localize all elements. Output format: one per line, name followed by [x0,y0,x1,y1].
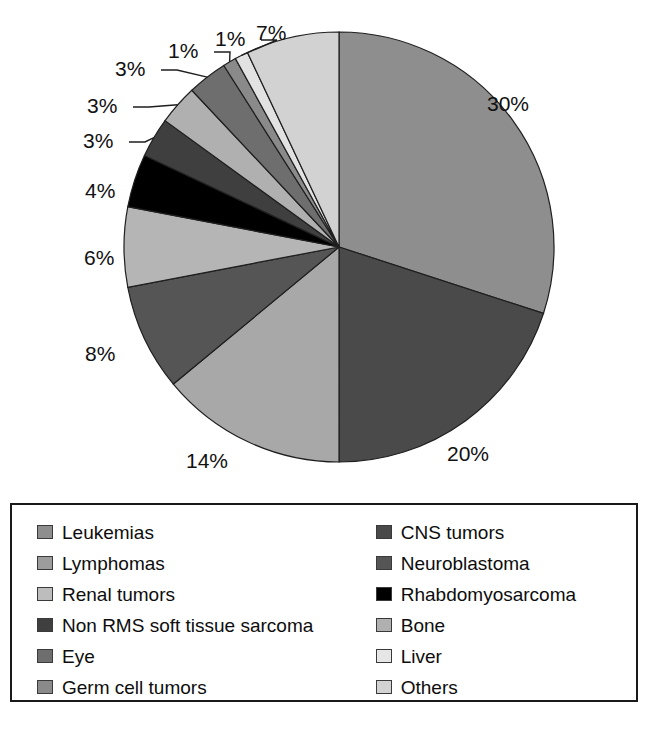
legend-item[interactable]: Eye [37,643,370,669]
pie-leader-line [214,52,230,62]
pie-percentage-label: 14% [186,450,228,471]
legend-swatch-icon [37,525,53,539]
pie-leader-line [129,138,154,142]
legend-swatch-icon [37,649,53,663]
legend-item-label: CNS tumors [401,523,504,542]
pie-percentage-label: 1% [168,40,198,61]
legend-item-label: Non RMS soft tissue sarcoma [62,616,313,635]
pie-percentage-label: 3% [83,130,113,151]
legend-swatch-icon [37,618,53,632]
pie-percentage-label: 1% [215,28,245,49]
legend-item[interactable]: Germ cell tumors [37,674,370,700]
pie-percentage-label: 3% [87,95,117,116]
legend-swatch-icon [37,680,53,694]
legend-column-left: LeukemiasLymphomasRenal tumorsNon RMS so… [12,519,370,700]
pie-percentage-label: 6% [84,247,114,268]
legend-item[interactable]: Neuroblastoma [376,550,636,576]
pie-percentage-label: 30% [487,93,529,114]
pie-percentage-label: 4% [85,180,115,201]
legend-swatch-icon [376,525,392,539]
legend-item[interactable]: Non RMS soft tissue sarcoma [37,612,370,638]
legend-item[interactable]: Bone [376,612,636,638]
legend-swatch-icon [376,587,392,601]
legend-swatch-icon [37,556,53,570]
legend-item[interactable]: Liver [376,643,636,669]
legend-item[interactable]: Leukemias [37,519,370,545]
legend-swatch-icon [376,680,392,694]
legend-item[interactable]: Renal tumors [37,581,370,607]
pie-percentage-label: 7% [256,22,286,43]
pie-chart-area: 30%20%14%8%6%4%3%3%3%1%1%7% [0,0,658,495]
pie-percentage-label: 3% [115,58,145,79]
legend-item-label: Leukemias [62,523,154,542]
legend-item[interactable]: Lymphomas [37,550,370,576]
legend-column-right: CNS tumorsNeuroblastomaRhabdomyosarcomaB… [370,519,636,700]
legend-item-label: Bone [401,616,445,635]
legend-box: LeukemiasLymphomasRenal tumorsNon RMS so… [10,503,638,702]
legend-item-label: Others [401,678,458,697]
legend-swatch-icon [376,649,392,663]
pie-leader-line [161,70,207,77]
legend-item-label: Liver [401,647,442,666]
legend-item-label: Eye [62,647,95,666]
legend-item[interactable]: Others [376,674,636,700]
legend-swatch-icon [376,618,392,632]
legend-item-label: Lymphomas [62,554,165,573]
legend-item[interactable]: Rhabdomyosarcoma [376,581,636,607]
pie-leader-line [133,105,178,107]
pie-percentage-label: 8% [85,343,115,364]
legend-swatch-icon [376,556,392,570]
legend-item[interactable]: CNS tumors [376,519,636,545]
legend-swatch-icon [37,587,53,601]
legend-item-label: Rhabdomyosarcoma [401,585,576,604]
legend-item-label: Germ cell tumors [62,678,207,697]
legend-item-label: Neuroblastoma [401,554,530,573]
pie-percentage-label: 20% [447,443,489,464]
legend-item-label: Renal tumors [62,585,175,604]
